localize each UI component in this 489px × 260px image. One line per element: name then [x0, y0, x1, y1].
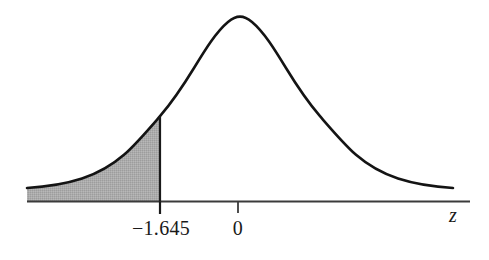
- shaded-tail-region: [27, 117, 160, 202]
- tick-label-center: 0: [213, 218, 263, 238]
- axis-variable-label: z: [438, 205, 468, 225]
- tick-label-critical: −1.645: [107, 218, 215, 238]
- normal-density-curve: [27, 17, 453, 188]
- normal-distribution-figure: −1.645 0 z: [0, 0, 489, 260]
